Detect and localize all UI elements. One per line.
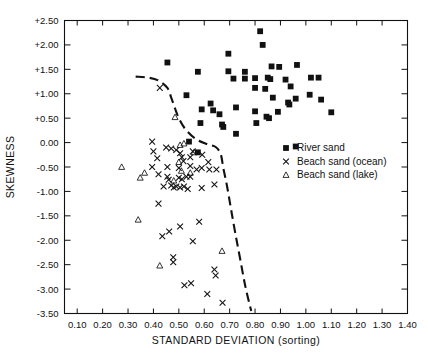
- data-point-square: [252, 108, 258, 114]
- data-point-square: [195, 69, 201, 75]
- legend-marker-square: [283, 145, 289, 151]
- y-tick-label: -2.00: [37, 235, 59, 246]
- data-point-x: [149, 164, 155, 170]
- trend-curve: [136, 77, 252, 311]
- data-point-square: [270, 95, 276, 101]
- data-point-square: [252, 75, 258, 81]
- y-tick-label: -0.50: [37, 162, 59, 173]
- data-point-x: [190, 238, 196, 244]
- data-point-square: [225, 51, 231, 57]
- data-point-square: [293, 96, 299, 102]
- data-point-square: [210, 107, 216, 113]
- data-point-square: [208, 101, 214, 107]
- data-point-triangle: [142, 170, 148, 176]
- x-tick-label: 0.20: [93, 319, 112, 330]
- y-axis-title: SKEWNESS: [4, 136, 16, 199]
- data-point-square: [186, 139, 192, 145]
- legend-label: Beach sand (lake): [297, 169, 378, 180]
- data-point-x: [214, 167, 220, 173]
- legend-label: Beach sand (ocean): [297, 156, 387, 167]
- data-point-square: [276, 64, 282, 70]
- x-tick-label: 0.80: [246, 319, 265, 330]
- y-tick-label: -3.00: [37, 284, 59, 295]
- data-point-square: [294, 62, 300, 68]
- data-point-x: [159, 233, 165, 239]
- x-tick-label: 1.30: [373, 319, 392, 330]
- data-point-square: [260, 42, 266, 48]
- data-point-triangle: [135, 217, 141, 223]
- data-point-square: [257, 28, 263, 34]
- chart-canvas: 0.100.200.300.400.500.600.700.800.901.00…: [0, 0, 428, 360]
- data-point-square: [318, 97, 324, 103]
- data-point-x: [166, 229, 172, 235]
- data-point-x: [161, 184, 167, 190]
- y-tick-label: 0.00: [40, 137, 59, 148]
- data-point-x: [213, 273, 219, 279]
- series-triangle: [119, 114, 225, 268]
- data-point-x: [187, 154, 193, 160]
- chart-legend: River sandBeach sand (ocean)Beach sand (…: [283, 142, 387, 180]
- y-tick-label: +2.00: [34, 39, 58, 50]
- data-point-x: [156, 171, 162, 177]
- x-axis-tick-labels: 0.100.200.300.400.500.600.700.800.901.00…: [68, 319, 417, 330]
- data-point-square: [316, 75, 322, 81]
- x-tick-label: 0.60: [195, 319, 214, 330]
- data-point-square: [165, 60, 171, 66]
- data-point-square: [307, 92, 313, 98]
- legend-marker-triangle: [283, 172, 289, 178]
- data-point-triangle: [181, 140, 187, 146]
- data-point-square: [328, 109, 334, 115]
- data-point-x: [182, 282, 188, 288]
- data-point-square: [253, 120, 259, 126]
- x-tick-label: 1.00: [297, 319, 316, 330]
- data-point-square: [184, 92, 190, 98]
- data-point-x: [157, 85, 163, 91]
- data-point-x: [188, 280, 194, 286]
- x-axis-title: STANDARD DEVIATION (sorting): [152, 334, 320, 346]
- x-tick-label: 0.30: [119, 319, 138, 330]
- x-tick-label: 1.20: [347, 319, 366, 330]
- data-point-triangle: [119, 164, 125, 170]
- data-point-triangle: [187, 170, 193, 176]
- data-point-x: [212, 182, 218, 188]
- legend-item-x[interactable]: Beach sand (ocean): [283, 156, 386, 167]
- legend-marker-x: [283, 159, 289, 165]
- legend-item-triangle[interactable]: Beach sand (lake): [283, 169, 378, 180]
- x-tick-label: 1.10: [322, 319, 341, 330]
- data-point-triangle: [157, 263, 163, 269]
- plot-frame: [65, 21, 408, 314]
- data-point-square: [266, 115, 272, 121]
- y-tick-label: +2.50: [34, 15, 58, 26]
- y-tick-label: -3.50: [37, 308, 59, 319]
- data-point-x: [165, 164, 171, 170]
- legend-item-square[interactable]: River sand: [283, 142, 345, 153]
- series-square: [165, 28, 335, 155]
- y-axis-tick-labels: +2.50+2.00+1.50+1.00+0.500.00-0.50-1.00-…: [34, 15, 58, 319]
- data-point-x: [187, 174, 193, 180]
- data-point-square: [286, 102, 292, 108]
- data-point-square: [262, 86, 268, 92]
- y-tick-label: -2.50: [37, 259, 59, 270]
- data-point-triangle: [176, 159, 182, 165]
- data-point-square: [217, 111, 223, 117]
- data-point-square: [233, 105, 239, 111]
- series-x: [149, 85, 225, 306]
- data-point-x: [196, 219, 202, 225]
- x-tick-label: 0.90: [271, 319, 290, 330]
- data-point-square: [225, 68, 231, 74]
- data-point-square: [199, 106, 205, 112]
- y-tick-label: -1.00: [37, 186, 59, 197]
- discriminant-curve: [136, 77, 252, 311]
- y-tick-label: -1.50: [37, 210, 59, 221]
- data-point-x: [220, 300, 226, 306]
- data-point-x: [187, 163, 193, 169]
- y-tick-label: +0.50: [34, 113, 58, 124]
- y-axis-ticks: [65, 21, 408, 314]
- data-point-x: [212, 267, 218, 273]
- data-point-square: [283, 77, 289, 83]
- data-point-square: [242, 69, 248, 75]
- x-tick-label: 1.40: [398, 319, 417, 330]
- data-point-square: [275, 109, 281, 115]
- data-point-square: [242, 76, 248, 82]
- data-point-square: [220, 124, 226, 130]
